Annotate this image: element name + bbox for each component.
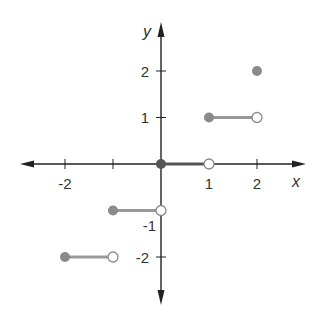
y-tick-label: -2 bbox=[136, 249, 149, 266]
y-tick-label: 1 bbox=[141, 109, 149, 126]
y-tick-label: 2 bbox=[141, 63, 149, 80]
closed-endpoint bbox=[156, 159, 166, 169]
open-endpoint bbox=[252, 113, 262, 123]
closed-endpoint bbox=[204, 113, 214, 123]
floor-function-graph: -21221-1-2 x y bbox=[0, 0, 326, 317]
open-endpoint bbox=[108, 252, 118, 262]
closed-endpoint bbox=[108, 206, 118, 216]
x-tick-label: 2 bbox=[253, 175, 261, 192]
x-axis-left-arrow-icon bbox=[20, 161, 34, 168]
x-tick-label: -2 bbox=[58, 175, 71, 192]
y-axis-up-arrow-icon bbox=[158, 22, 165, 37]
open-endpoint bbox=[204, 159, 214, 169]
x-tick-label: 1 bbox=[205, 175, 213, 192]
isolated-closed-point bbox=[252, 66, 262, 76]
open-endpoint bbox=[156, 206, 166, 216]
closed-endpoint bbox=[60, 252, 70, 262]
x-axis-right-arrow-icon bbox=[292, 161, 306, 168]
y-tick-label: -1 bbox=[143, 217, 156, 234]
y-axis-down-arrow-icon bbox=[158, 290, 165, 305]
y-axis-label: y bbox=[142, 23, 152, 40]
x-axis-label: x bbox=[291, 173, 301, 190]
